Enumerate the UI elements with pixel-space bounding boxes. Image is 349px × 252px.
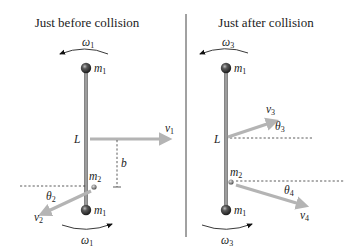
omega-top-label-before: ω1 xyxy=(82,36,94,50)
velocity-v3-arrow xyxy=(228,122,273,137)
angle-theta4-label: θ4 xyxy=(284,184,294,198)
panel-after: Just after collision ω3 L m1 v3 θ3 θ4 v4… xyxy=(200,15,345,248)
angle-theta2-label: θ2 xyxy=(46,190,56,204)
small-mass-label-after: m2 xyxy=(230,166,242,180)
top-mass-ball-after xyxy=(221,63,231,73)
omega-top-label-after: ω3 xyxy=(222,36,234,50)
rod-length-label-before: L xyxy=(73,133,80,145)
velocity-v2-label: v2 xyxy=(34,211,43,225)
top-mass-label-before: m1 xyxy=(94,62,106,76)
bottom-mass-label-before: m1 xyxy=(94,204,106,218)
panel-title-after: Just after collision xyxy=(218,15,314,30)
omega-top-arrow-before xyxy=(60,49,108,54)
small-mass-ball-before xyxy=(91,184,96,189)
omega-bottom-label-after: ω3 xyxy=(221,234,233,248)
rod-length-label-after: L xyxy=(213,133,220,145)
small-mass-label-before: m2 xyxy=(89,170,101,184)
collision-diagram: Just before collision ω1 L m1 v1 b θ2 v2… xyxy=(0,0,349,252)
panel-before: Just before collision ω1 L m1 v1 b θ2 v2… xyxy=(20,15,174,248)
impact-parameter-label: b xyxy=(121,157,127,169)
omega-bottom-arrow-after xyxy=(202,224,252,229)
top-mass-label-after: m1 xyxy=(234,62,246,76)
bottom-mass-ball-before xyxy=(81,205,91,215)
bottom-mass-label-after: m1 xyxy=(234,204,246,218)
omega-top-arrow-after xyxy=(200,49,248,54)
top-mass-ball-before xyxy=(81,63,91,73)
omega-bottom-label-before: ω1 xyxy=(81,234,93,248)
angle-theta3-label: θ3 xyxy=(275,120,285,134)
velocity-v3-label: v3 xyxy=(266,103,275,117)
panel-title-before: Just before collision xyxy=(35,15,140,30)
small-mass-ball-after xyxy=(228,179,233,184)
velocity-v1-label: v1 xyxy=(165,122,174,136)
bottom-mass-ball-after xyxy=(221,205,231,215)
velocity-v4-label: v4 xyxy=(300,209,309,223)
omega-bottom-arrow-before xyxy=(62,224,112,229)
